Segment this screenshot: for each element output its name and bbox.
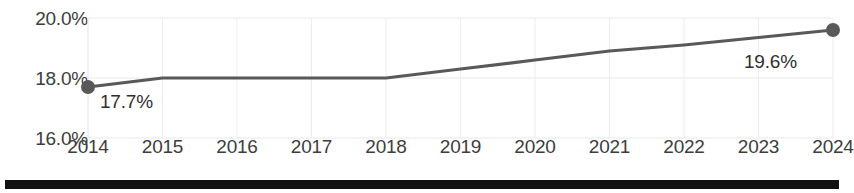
data-point-marker	[826, 23, 840, 37]
x-axis-tick-label: 2019	[440, 137, 481, 156]
x-axis-tick-label: 2016	[216, 137, 257, 156]
data-label-first-point: 17.7%	[100, 92, 153, 111]
x-axis-tick-label: 2021	[589, 137, 630, 156]
x-axis-tick-label: 2014	[67, 137, 108, 156]
x-axis-tick-label: 2018	[365, 137, 406, 156]
y-axis-tick-label: 18.0%	[2, 69, 88, 88]
y-axis: 16.0%18.0%20.0%	[0, 0, 88, 193]
x-axis-tick-label: 2020	[514, 137, 555, 156]
x-axis-tick-label: 2023	[738, 137, 779, 156]
x-axis-tick-label: 2017	[291, 137, 332, 156]
footer-rule	[5, 180, 839, 189]
plot-area	[88, 18, 833, 138]
data-label-last-point: 19.6%	[744, 52, 797, 71]
data-point-marker	[81, 80, 95, 94]
y-axis-tick-label: 20.0%	[2, 9, 88, 28]
chart-canvas	[88, 18, 833, 138]
x-axis-tick-label: 2024	[812, 137, 853, 156]
x-axis-tick-label: 2022	[663, 137, 704, 156]
x-axis: 2014201520162017201820192020202120222023…	[88, 137, 833, 169]
x-axis-tick-label: 2015	[142, 137, 183, 156]
